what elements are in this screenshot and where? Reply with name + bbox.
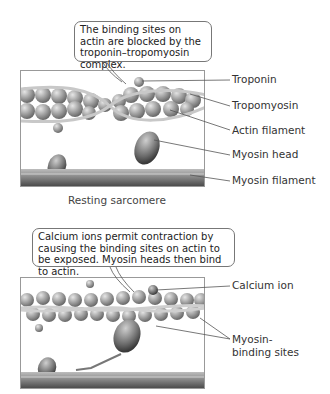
leader-lines	[0, 0, 330, 394]
